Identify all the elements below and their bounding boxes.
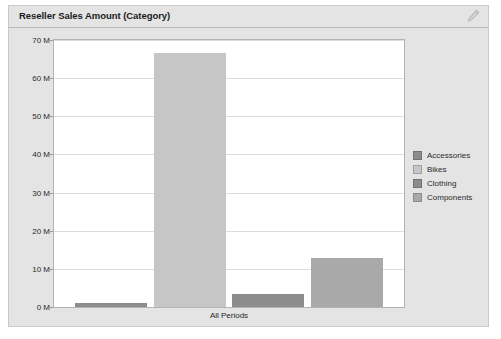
y-axis-tick-label: 40 M <box>10 150 50 159</box>
y-axis-tick-label: 10 M <box>10 264 50 273</box>
plot-area[interactable] <box>53 39 405 308</box>
legend-item-label: Bikes <box>427 165 447 174</box>
y-axis-tick-label: 50 M <box>10 112 50 121</box>
gridline <box>54 116 404 117</box>
gridline <box>54 78 404 79</box>
legend-swatch-icon <box>413 193 422 202</box>
bar-components[interactable] <box>311 258 383 307</box>
legend-item-label: Clothing <box>427 179 456 188</box>
chart-body: 0 M10 M20 M30 M40 M50 M60 M70 M All Peri… <box>9 28 488 326</box>
gridline <box>54 40 404 41</box>
chart-widget-panel[interactable]: Reseller Sales Amount (Category) 0 M10 M… <box>8 5 489 327</box>
widget-title-bar: Reseller Sales Amount (Category) <box>9 6 488 28</box>
y-axis-tick-label: 20 M <box>10 226 50 235</box>
legend-item-clothing[interactable]: Clothing <box>413 176 489 190</box>
gridline <box>54 193 404 194</box>
chart-settings-icon[interactable] <box>466 9 480 24</box>
y-axis: 0 M10 M20 M30 M40 M50 M60 M70 M <box>9 39 50 308</box>
x-axis-label: All Periods <box>53 311 405 320</box>
y-axis-tick-label: 70 M <box>10 36 50 45</box>
legend-swatch-icon <box>413 165 422 174</box>
legend-swatch-icon <box>413 151 422 160</box>
gridline <box>54 231 404 232</box>
legend-item-label: Accessories <box>427 151 470 160</box>
legend-swatch-icon <box>413 179 422 188</box>
page-title: Reseller Sales Amount (Category) <box>19 10 170 21</box>
gridline <box>54 154 404 155</box>
chart-legend: AccessoriesBikesClothingComponents <box>413 148 489 204</box>
y-axis-tick-label: 60 M <box>10 74 50 83</box>
legend-item-accessories[interactable]: Accessories <box>413 148 489 162</box>
legend-item-components[interactable]: Components <box>413 190 489 204</box>
bar-bikes[interactable] <box>154 53 226 307</box>
y-axis-tick-label: 0 M <box>10 303 50 312</box>
y-axis-tick-label: 30 M <box>10 188 50 197</box>
legend-item-label: Components <box>427 193 472 202</box>
bar-clothing[interactable] <box>232 294 304 307</box>
bar-accessories[interactable] <box>75 303 147 307</box>
legend-item-bikes[interactable]: Bikes <box>413 162 489 176</box>
